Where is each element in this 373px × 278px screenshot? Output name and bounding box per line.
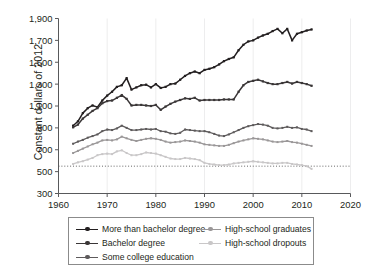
legend-swatch-icon [199, 225, 221, 234]
x-tick-label: 1970 [97, 199, 118, 210]
y-tick-label: 900 [37, 122, 53, 133]
legend-item[interactable]: High-school dropouts [199, 236, 311, 250]
y-axis-ticks: 3005007009001,1001,3001,5001,7001,900 [29, 13, 58, 199]
data-series-group [72, 28, 313, 170]
chart-legend: More than bachelor degreeBachelor degree… [68, 217, 314, 265]
x-axis-ticks: 1960197019801990200020102020 [48, 194, 361, 211]
y-tick-label: 700 [37, 144, 53, 155]
series-high-school-dropouts [72, 149, 312, 170]
legend-item[interactable]: Some college education [76, 250, 205, 264]
legend-item-label: High-school dropouts [225, 238, 306, 248]
chart-figure: Constant dollars of 2012 3005007009001,1… [0, 0, 373, 278]
legend-swatch-icon [76, 253, 98, 262]
series-more-than-bachelor-degree [72, 28, 313, 127]
gridlines [107, 19, 350, 194]
x-tick-label: 1990 [194, 199, 215, 210]
x-tick-label: 1960 [48, 199, 69, 210]
legend-column-left: More than bachelor degreeBachelor degree… [76, 222, 205, 264]
legend-item[interactable]: Bachelor degree [76, 236, 205, 250]
y-tick-label: 1,300 [29, 79, 52, 90]
legend-swatch-icon [76, 239, 98, 248]
y-tick-label: 1,900 [29, 13, 52, 24]
x-tick-label: 1980 [145, 199, 166, 210]
legend-item-label: High-school graduates [225, 224, 311, 234]
legend-item-label: Bachelor degree [102, 238, 165, 248]
series-bachelor-degree [72, 79, 313, 129]
legend-swatch-icon [76, 225, 98, 234]
legend-item[interactable]: High-school graduates [199, 222, 311, 236]
x-tick-label: 2000 [243, 199, 264, 210]
legend-column-right: High-school graduatesHigh-school dropout… [199, 222, 311, 250]
y-tick-label: 1,700 [29, 35, 52, 46]
x-tick-label: 2010 [291, 199, 312, 210]
series-high-school-graduates [72, 136, 312, 154]
legend-swatch-icon [199, 239, 221, 248]
y-tick-label: 500 [37, 166, 53, 177]
legend-item-label: Some college education [102, 252, 194, 262]
y-tick-label: 1,500 [29, 57, 52, 68]
x-tick-label: 2020 [340, 199, 361, 210]
y-tick-label: 300 [37, 188, 53, 199]
legend-item-label: More than bachelor degree [102, 224, 205, 234]
y-tick-label: 1,100 [29, 100, 52, 111]
legend-item[interactable]: More than bachelor degree [76, 222, 205, 236]
